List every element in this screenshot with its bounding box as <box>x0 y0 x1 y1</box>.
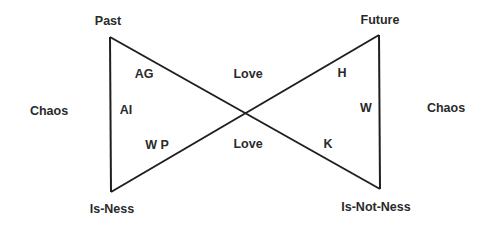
right-vertical-edge <box>379 35 380 189</box>
left-inner-label-ag: AG <box>135 68 154 81</box>
vertex-label-past: Past <box>95 15 121 28</box>
center-label-love-top: Love <box>233 68 262 81</box>
side-label-chaos-right: Chaos <box>427 102 465 115</box>
vertex-label-is-ness: Is-Ness <box>90 203 134 216</box>
vertex-label-is-not-ness: Is-Not-Ness <box>341 201 410 214</box>
diagonal-is-ness-to-future <box>111 35 379 192</box>
vertex-label-future: Future <box>361 14 400 27</box>
left-inner-label-wp: W P <box>145 139 169 152</box>
left-vertical-edge <box>110 37 111 192</box>
bowtie-lines <box>0 0 490 232</box>
right-inner-label-w: W <box>360 102 372 115</box>
bowtie-diagram: Past Future Is-Ness Is-Not-Ness Chaos Ch… <box>0 0 490 232</box>
side-label-chaos-left: Chaos <box>30 105 68 118</box>
left-inner-label-ai: AI <box>120 104 133 117</box>
center-label-love-bottom: Love <box>233 138 262 151</box>
right-inner-label-k: K <box>323 138 332 151</box>
right-inner-label-h: H <box>337 67 346 80</box>
